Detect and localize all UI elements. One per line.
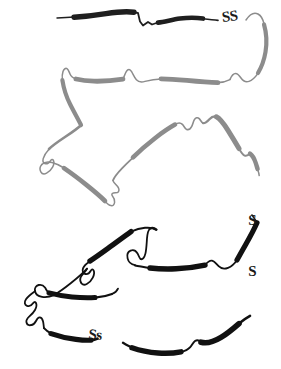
chain-top-segment [57, 12, 218, 26]
chain-left-descent-thick [62, 80, 81, 125]
chain-lower-peak-link [131, 228, 156, 232]
chain-left-vertical-path [25, 291, 37, 325]
chain-bottom-right-terminus [239, 316, 250, 324]
chain-gray-thick-1 [161, 79, 218, 83]
chain-lower-mid-thick [150, 265, 205, 269]
chain-lower-left-diagonal [90, 232, 131, 261]
chain-right-connector-thin-bottom [230, 73, 258, 81]
chain-top-thin-tail [203, 19, 218, 21]
chain-middle-apex-thick-right [216, 117, 239, 149]
disulfide-bridge-label-2-bottom: S [245, 263, 260, 280]
chain-midleft-bar-right-thin [95, 294, 112, 298]
chain-lower-mid-thin [135, 265, 150, 268]
chain-middle-apex [133, 116, 259, 175]
chain-bottom-left-thick [51, 334, 91, 341]
chain-bottom-right-thin-mid [181, 340, 201, 352]
chain-gray-thin-mid [123, 69, 161, 82]
chain-lower-black-segment [54, 223, 257, 295]
chain-lower-left-tail [54, 269, 87, 295]
chain-upper-gray-segment [62, 68, 230, 82]
chain-bottom-right [123, 316, 250, 353]
chain-right-connector-thick [258, 24, 266, 73]
chain-top-zig [134, 12, 158, 25]
chain-middle-diagonal-up [113, 158, 133, 181]
chain-lower-uturn [127, 250, 140, 265]
chain-lower-right-thin [205, 260, 237, 268]
disulfide-bridge-label-2: S S [245, 178, 260, 314]
chain-midleft-bar-rightwiggle [112, 289, 118, 294]
chain-right-connector [230, 13, 266, 81]
chain-middle-apex-thick-end [250, 154, 258, 169]
disulfide-bridge-label-2-top: S [245, 212, 260, 229]
chain-top-thick-1 [74, 12, 134, 17]
chain-left-descent-thin [49, 125, 81, 149]
chain-bottom-right-thick-1 [132, 348, 181, 353]
chain-top-thick-2 [158, 18, 203, 23]
disulfide-bridge-label-3: Ss [88, 327, 102, 343]
chain-middle-diagonal-thick [64, 168, 105, 201]
chain-lower-rise-thin [141, 229, 150, 260]
chain-middle-apex-thick-left [133, 125, 175, 158]
chain-midleft-bar-thick [49, 293, 95, 298]
chain-gray-thin-left [62, 68, 76, 80]
polypeptide-chain-figure: SS S S Ss [0, 0, 281, 369]
chain-diagram-svg [0, 0, 281, 369]
disulfide-bridge-label-1: SS [221, 8, 238, 25]
chain-bottom-right-thick-2 [201, 324, 239, 343]
chain-midleft-bar [35, 285, 118, 298]
chain-middle-diagonal [64, 158, 133, 206]
chain-middle-left-foot [40, 149, 64, 174]
chain-gray-thick-2 [76, 79, 123, 81]
chain-middle-apex-wiggle [175, 118, 203, 130]
chain-left-descent [49, 80, 81, 149]
chain-right-connector-thin-top [246, 13, 264, 24]
chain-left-vertical-down [31, 317, 44, 328]
